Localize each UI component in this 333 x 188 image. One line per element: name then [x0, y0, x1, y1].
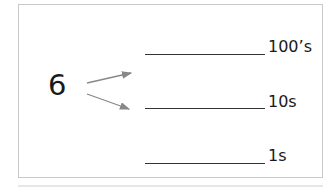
arrow-up-icon [87, 73, 131, 83]
hundreds-label: 100’s [268, 38, 312, 56]
hundreds-blank [145, 54, 265, 55]
tens-label: 10s [268, 93, 297, 111]
arrow-down-icon [87, 94, 129, 109]
tens-blank [145, 108, 265, 109]
ones-blank [145, 163, 265, 164]
ones-label: 1s [268, 147, 287, 165]
